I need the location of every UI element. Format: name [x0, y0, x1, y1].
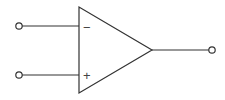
inverting-input-terminal	[16, 23, 22, 29]
plus-sign: +	[83, 68, 91, 83]
output-terminal	[209, 47, 215, 53]
minus-sign: −	[83, 20, 91, 35]
op-amp-diagram: − +	[0, 0, 225, 100]
op-amp-svg: − +	[0, 0, 225, 100]
noninverting-input-terminal	[16, 72, 22, 78]
